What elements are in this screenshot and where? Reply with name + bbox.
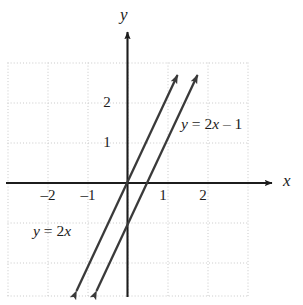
x-axis-label: x xyxy=(283,172,291,189)
x-tick-label-neg2: –2 xyxy=(38,188,58,203)
equation-coefficient: 2 xyxy=(56,222,64,239)
y-axis-label: y xyxy=(120,6,128,23)
equation-lhs: y xyxy=(33,222,40,239)
equation-coefficient: 2 xyxy=(204,115,212,132)
equation-variable: x xyxy=(212,115,219,132)
x-tick-label-1: 1 xyxy=(156,188,170,203)
x-tick-label-neg1: –1 xyxy=(78,188,98,203)
equation-tail: – 1 xyxy=(223,115,242,132)
coordinate-graph-figure: y x 2 1 –2 –1 1 2 y = 2x – 1 y = 2x xyxy=(0,0,303,305)
equation-lhs: y xyxy=(181,115,188,132)
x-tick-label-2: 2 xyxy=(196,188,210,203)
equation-label-line-b: y = 2x – 1 xyxy=(181,116,242,132)
equation-label-line-a: y = 2x xyxy=(33,223,71,239)
graph-canvas xyxy=(0,0,303,305)
y-tick-label-1: 1 xyxy=(100,135,114,150)
equation-operator: = xyxy=(192,115,201,132)
equation-operator: = xyxy=(44,222,53,239)
equation-variable: x xyxy=(64,222,71,239)
axes xyxy=(6,32,272,297)
y-tick-label-2: 2 xyxy=(100,95,114,110)
